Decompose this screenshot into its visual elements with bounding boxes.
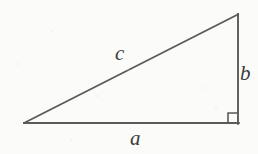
hypotenuse-label: c [115, 43, 124, 64]
right-triangle-figure: c b a [0, 0, 258, 154]
base-leg-label: a [130, 128, 141, 149]
hypotenuse-line [24, 14, 238, 123]
triangle-drawing [0, 0, 258, 154]
vertical-leg-label: b [240, 63, 251, 84]
right-angle-marker-icon [228, 113, 238, 123]
